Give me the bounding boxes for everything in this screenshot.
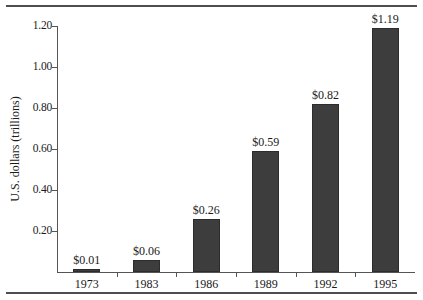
y-tick-mark [52, 108, 58, 109]
bar-value-label-1995: $1.19 [350, 12, 420, 26]
y-tick-mark [52, 231, 58, 232]
y-tick-label-wrapper: 0.20 [0, 225, 52, 237]
y-tick-label-wrapper: 0.60 [0, 143, 52, 155]
bar-value-label-1986: $0.26 [171, 203, 241, 217]
x-tick-label-1983: 1983 [117, 277, 177, 291]
bar-chart-figure: U.S. dollars (trillions) 0.200.400.600.8… [0, 0, 423, 300]
y-tick-mark [52, 190, 58, 191]
x-tick-label-1986: 1986 [176, 277, 236, 291]
y-tick-label-wrapper: 0.40 [0, 184, 52, 196]
bar-1989 [252, 151, 279, 272]
bar-1986 [193, 219, 220, 272]
y-tick-label: 0.80 [6, 102, 52, 114]
y-tick-label: 0.20 [6, 225, 52, 237]
top-horizontal-rule [6, 5, 417, 7]
bar-value-label-1992: $0.82 [291, 88, 361, 102]
y-tick-label: 1.00 [6, 61, 52, 73]
bar-value-label-1983: $0.06 [112, 244, 182, 258]
bar-1995 [372, 28, 399, 272]
y-tick-label: 1.20 [6, 20, 52, 32]
y-tick-label: 0.60 [6, 143, 52, 155]
bar-1983 [133, 260, 160, 272]
y-tick-label: 0.40 [6, 184, 52, 196]
y-tick-label-wrapper: 1.20 [0, 20, 52, 32]
x-tick-label-1995: 1995 [355, 277, 415, 291]
bar-value-label-1989: $0.59 [231, 135, 301, 149]
y-tick-mark [52, 26, 58, 27]
x-tick-label-1992: 1992 [296, 277, 356, 291]
y-tick-mark [52, 149, 58, 150]
bottom-horizontal-rule [6, 292, 417, 294]
y-tick-mark [52, 67, 58, 68]
bar-1992 [312, 104, 339, 272]
y-tick-label-wrapper: 0.80 [0, 102, 52, 114]
x-tick-label-1989: 1989 [236, 277, 296, 291]
y-tick-label-wrapper: 1.00 [0, 61, 52, 73]
x-tick-label-1973: 1973 [57, 277, 117, 291]
bar-1973 [73, 269, 100, 272]
